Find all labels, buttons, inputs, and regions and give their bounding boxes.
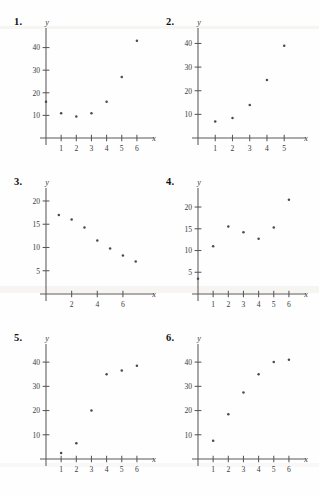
plot-grid: 1. 12345610203040xy 2. 1234510203040xy 3… <box>0 0 319 497</box>
scatter-plot-3: 2465101520xy <box>8 174 160 330</box>
data-point <box>45 101 48 104</box>
y-tick-label: 30 <box>184 382 192 391</box>
scatter-plot-2: 1234510203040xy <box>160 14 312 174</box>
y-tick-label: 30 <box>32 66 40 75</box>
scatter-plot-6: 12345610203040xy <box>160 330 312 495</box>
y-tick-label: 20 <box>184 203 192 212</box>
x-tick-label: 4 <box>257 300 261 309</box>
x-tick-label: 4 <box>95 300 99 309</box>
x-tick-label: 6 <box>287 465 291 474</box>
x-tick-label: 3 <box>90 465 94 474</box>
x-tick-label: 2 <box>226 465 230 474</box>
x-tick-label: 2 <box>231 144 235 153</box>
data-point <box>121 369 124 372</box>
y-tick-label: 5 <box>36 267 40 276</box>
problem-1-cell: 1. 12345610203040xy <box>8 14 160 174</box>
x-tick-label: 6 <box>135 465 139 474</box>
y-axis-label: y <box>44 178 49 187</box>
plot-1-canvas: 12345610203040xy <box>8 14 160 174</box>
x-tick-label: 2 <box>70 300 74 309</box>
data-point <box>273 361 276 364</box>
data-point <box>288 198 291 201</box>
data-point <box>90 112 93 115</box>
y-axis-label: y <box>44 334 49 343</box>
data-point <box>122 254 125 257</box>
x-tick-label: 5 <box>120 144 124 153</box>
data-point <box>83 226 86 229</box>
y-tick-label: 20 <box>32 197 40 206</box>
data-point <box>105 101 108 104</box>
y-tick-label: 10 <box>184 431 192 440</box>
y-tick-label: 20 <box>184 87 192 96</box>
data-point <box>58 214 61 217</box>
x-tick-label: 3 <box>242 300 246 309</box>
plot-4-canvas: 1234565101520xy <box>160 174 312 330</box>
scatter-plot-1: 12345610203040xy <box>8 14 160 174</box>
data-point <box>134 260 137 263</box>
data-point <box>283 45 286 48</box>
x-tick-label: 5 <box>272 300 276 309</box>
problem-6-cell: 6. 12345610203040xy <box>160 330 312 495</box>
x-tick-label: 3 <box>90 144 94 153</box>
x-tick-label: 6 <box>121 300 125 309</box>
x-tick-label: 2 <box>74 144 78 153</box>
y-tick-label: 40 <box>32 358 40 367</box>
y-axis-label: y <box>44 18 49 27</box>
x-tick-label: 2 <box>226 300 230 309</box>
y-tick-label: 10 <box>184 246 192 255</box>
y-tick-label: 15 <box>32 220 40 229</box>
data-point <box>273 226 276 229</box>
scatter-plot-5: 12345610203040xy <box>8 330 160 495</box>
data-point <box>266 79 269 82</box>
x-tick-label: 4 <box>265 144 269 153</box>
data-point <box>105 373 108 376</box>
data-point <box>109 247 112 250</box>
y-tick-label: 20 <box>32 406 40 415</box>
x-tick-label: 1 <box>211 300 215 309</box>
x-tick-label: 5 <box>282 144 286 153</box>
data-point <box>197 278 200 281</box>
data-point <box>227 225 230 228</box>
data-point <box>70 218 73 221</box>
data-point <box>136 40 139 43</box>
x-tick-label: 4 <box>105 465 109 474</box>
plot-3-canvas: 2465101520xy <box>8 174 160 330</box>
x-tick-label: 4 <box>105 144 109 153</box>
y-tick-label: 20 <box>184 406 192 415</box>
data-point <box>136 364 139 367</box>
data-point <box>231 117 234 120</box>
data-point <box>214 120 217 123</box>
x-tick-label: 6 <box>135 144 139 153</box>
data-point <box>60 452 63 455</box>
data-point <box>75 442 78 445</box>
x-axis-label: x <box>303 290 308 299</box>
x-tick-label: 5 <box>272 465 276 474</box>
y-tick-label: 30 <box>184 63 192 72</box>
y-axis-label: y <box>196 334 201 343</box>
x-tick-label: 6 <box>287 300 291 309</box>
x-axis-label: x <box>151 290 156 299</box>
problem-2-cell: 2. 1234510203040xy <box>160 14 312 174</box>
x-tick-label: 1 <box>59 465 63 474</box>
x-axis-label: x <box>151 455 156 464</box>
x-tick-label: 3 <box>242 465 246 474</box>
x-tick-label: 2 <box>74 465 78 474</box>
problem-4-cell: 4. 1234565101520xy <box>160 174 312 330</box>
data-point <box>96 239 99 242</box>
y-tick-label: 40 <box>32 43 40 52</box>
data-point <box>212 245 215 248</box>
y-tick-label: 10 <box>184 110 192 119</box>
y-axis-label: y <box>196 18 201 27</box>
data-point <box>60 112 63 115</box>
data-point <box>248 104 251 107</box>
x-tick-label: 3 <box>248 144 252 153</box>
x-axis-label: x <box>303 455 308 464</box>
x-tick-label: 4 <box>257 465 261 474</box>
x-tick-label: 1 <box>59 144 63 153</box>
data-point <box>257 238 260 241</box>
data-point <box>242 391 245 394</box>
data-point <box>90 409 93 412</box>
y-tick-label: 5 <box>188 268 192 277</box>
problem-5-cell: 5. 12345610203040xy <box>8 330 160 495</box>
x-tick-label: 5 <box>120 465 124 474</box>
